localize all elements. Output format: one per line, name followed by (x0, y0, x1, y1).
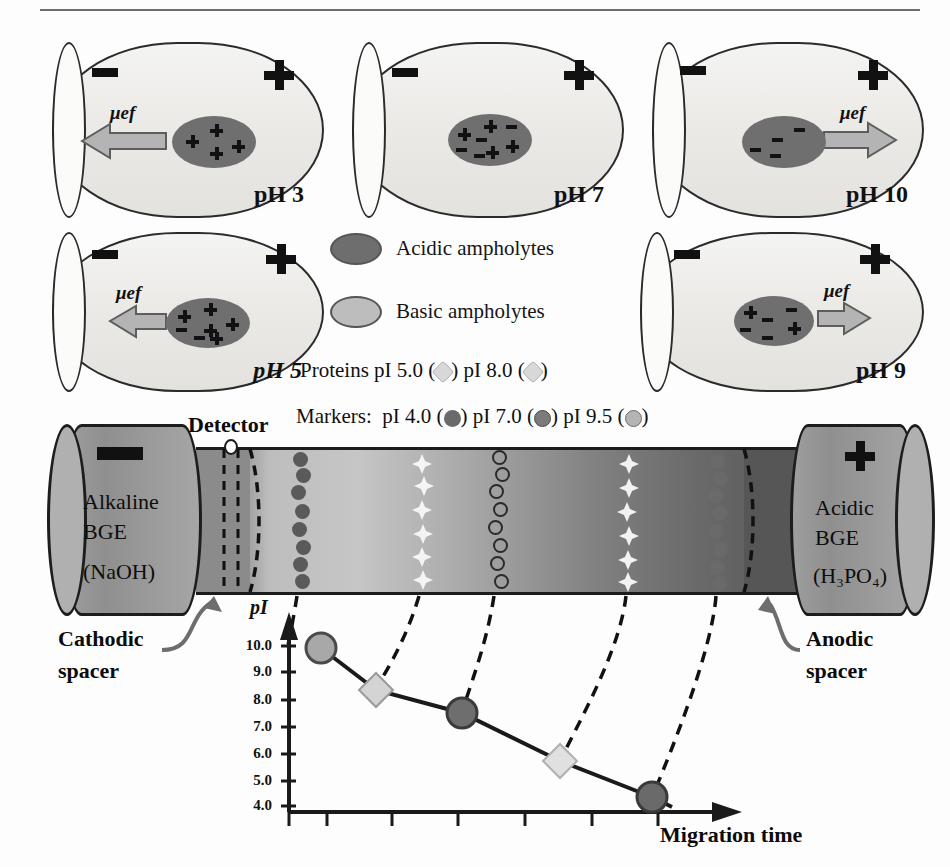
y-tick-label: 5.0 (228, 772, 272, 789)
y-tick-label: 7.0 (228, 718, 272, 735)
y-tick-label: 10.0 (228, 637, 272, 654)
y-tick-label: 8.0 (228, 691, 272, 708)
y-tick-label: 4.0 (228, 797, 272, 814)
y-axis-title: pI (250, 596, 268, 619)
y-tick-label: 9.0 (228, 663, 272, 680)
y-tick-label: 6.0 (228, 745, 272, 762)
data-point-pI-7.0 (447, 698, 477, 728)
data-point-pI-8.0 (359, 673, 393, 707)
data-point-pI-9.5 (306, 633, 336, 663)
data-point-pI-4.0 (637, 782, 667, 812)
pI-vs-migration-time-plot (0, 0, 950, 867)
x-axis-title: Migration time (660, 822, 802, 848)
data-point-pI-5.0 (543, 744, 577, 778)
figure-canvas: μef pH 3 pH 7 (0, 0, 950, 867)
